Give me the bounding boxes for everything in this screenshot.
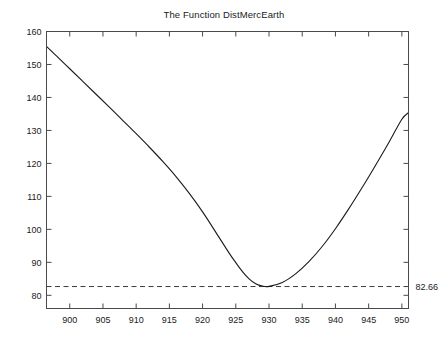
y-axis-ticks [47, 32, 52, 296]
y-tick-label: 120 [26, 159, 41, 169]
plot-area: 900905910915920925930935940945950 809010… [0, 0, 448, 347]
y-tick-label: 150 [26, 60, 41, 70]
x-tick-label: 930 [261, 315, 276, 325]
x-tick-label: 935 [295, 315, 310, 325]
y-tick-label: 90 [31, 258, 41, 268]
x-tick-label: 950 [394, 315, 409, 325]
y-tick-label: 80 [31, 291, 41, 301]
y-tick-label: 110 [27, 192, 41, 202]
x-axis-tick-labels: 900905910915920925930935940945950 [62, 315, 409, 325]
x-tick-label: 920 [195, 315, 210, 325]
annotation-label-group: 82.66 [416, 282, 439, 292]
axes-frame [47, 32, 409, 309]
y-tick-label: 160 [26, 27, 41, 37]
x-axis-ticks-top [70, 32, 402, 37]
reference-line-label: 82.66 [416, 282, 439, 292]
data-series-group [47, 46, 409, 286]
y-tick-label: 140 [26, 93, 41, 103]
x-tick-label: 940 [328, 315, 343, 325]
x-tick-label: 910 [129, 315, 144, 325]
x-tick-label: 905 [95, 315, 110, 325]
x-tick-label: 900 [62, 315, 77, 325]
x-tick-label: 925 [228, 315, 243, 325]
x-tick-label: 945 [361, 315, 376, 325]
y-axis-ticks-right [404, 32, 409, 296]
y-tick-label: 100 [26, 225, 41, 235]
data-curve [47, 46, 409, 286]
x-axis-ticks [70, 304, 402, 309]
y-axis-tick-labels: 8090100110120130140150160 [26, 27, 41, 301]
figure-canvas: The Function DistMercEarth 9009059109159… [0, 0, 448, 347]
y-tick-label: 130 [26, 126, 41, 136]
x-tick-label: 915 [162, 315, 177, 325]
